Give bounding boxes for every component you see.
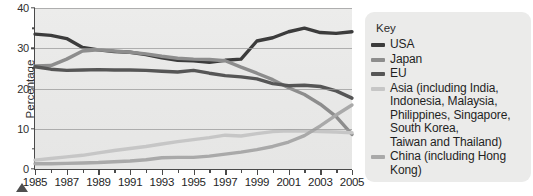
x-tick-mark [114,170,115,173]
legend-box: Key USAJapanEUAsia (including India, Ind… [365,12,531,182]
x-tick-mark [162,170,163,175]
legend-swatch-icon [371,43,385,47]
x-tick-mark [194,170,195,175]
x-tick-mark [209,170,210,173]
legend-item-label: EU [390,67,406,81]
x-tick-mark [320,170,321,175]
legend-item[interactable]: USA [371,38,529,52]
y-minor-tick-mark [32,108,35,109]
x-tick-label: 1995 [181,176,205,188]
x-tick-mark [178,170,179,173]
y-tick-label: 0 [0,163,34,175]
legend-title: Key [376,22,396,34]
x-tick-mark [130,170,131,175]
x-tick-mark [83,170,84,173]
y-tick-label: 40 [0,2,34,14]
legend-item-label: Japan [390,53,422,67]
x-tick-mark [352,170,353,175]
x-tick-mark [35,170,36,175]
y-minor-tick-mark [32,27,35,28]
legend-swatch-icon [371,87,385,91]
x-tick-label: 2001 [276,176,300,188]
x-tick-mark [146,170,147,173]
series-line-2 [35,50,352,135]
x-tick-label: 1997 [213,176,237,188]
plot-area [35,8,352,169]
gridline [35,129,352,130]
x-tick-label: 2005 [340,176,364,188]
x-tick-mark [304,170,305,173]
legend-item-label: China (including Hong Kong) [390,150,529,177]
legend-item-label: Asia (including India, Indonesia, Malays… [390,82,510,150]
x-tick-mark [336,170,337,173]
x-tick-label: 2003 [308,176,332,188]
x-tick-label: 1991 [118,176,142,188]
legend-item[interactable]: China (including Hong Kong) [371,150,529,177]
x-tick-label: 1993 [150,176,174,188]
gridline [35,48,352,49]
legend-swatch-icon [371,155,385,159]
x-tick-mark [67,170,68,175]
legend-item-label: USA [390,38,414,52]
x-tick-mark [225,170,226,175]
y-tick-label: 30 [0,42,34,54]
legend-item[interactable]: Japan [371,53,529,67]
y-tick-label: 10 [0,123,34,135]
legend-item[interactable]: EU [371,67,529,81]
x-tick-label: 1989 [86,176,110,188]
y-minor-tick-mark [32,68,35,69]
x-tick-mark [257,170,258,175]
x-tick-mark [51,170,52,173]
legend-item[interactable]: Asia (including India, Indonesia, Malays… [371,82,529,150]
legend-swatch-icon [371,72,385,76]
legend-items: USAJapanEUAsia (including India, Indones… [371,38,529,178]
gridline [35,89,352,90]
x-tick-label: 1999 [245,176,269,188]
series-line-1 [35,28,352,62]
chart-screenshot: Percentage 010203040 1985198719891991199… [0,0,533,196]
x-tick-mark [289,170,290,175]
gridline [35,8,352,9]
y-minor-tick-mark [32,148,35,149]
x-tick-mark [98,170,99,175]
pointer-arrow-icon [16,183,28,192]
legend-swatch-icon [371,58,385,62]
x-tick-mark [241,170,242,173]
y-tick-label: 20 [0,83,34,95]
x-tick-mark [273,170,274,173]
line-chart: Percentage 010203040 1985198719891991199… [0,0,360,196]
x-tick-label: 1987 [54,176,78,188]
